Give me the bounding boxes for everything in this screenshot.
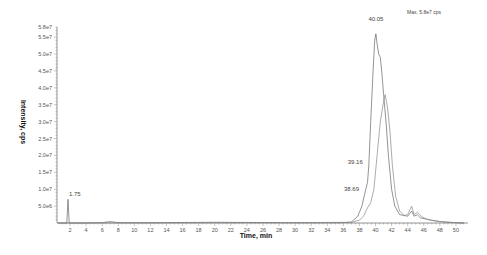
y-tick-label: 3.5e7 bbox=[38, 102, 52, 108]
x-tick-label: 16 bbox=[179, 227, 185, 233]
peak-label: 1.75 bbox=[69, 191, 81, 197]
max-intensity-label: Max. 5.8e7 cps bbox=[407, 9, 441, 15]
x-tick-label: 44 bbox=[405, 227, 411, 233]
x-tick-label: 30 bbox=[292, 227, 298, 233]
x-tick-label: 14 bbox=[163, 227, 169, 233]
x-tick-label: 50 bbox=[453, 227, 459, 233]
chromatogram-chart: 5.0e61.0e71.5e72.0e72.5e73.0e73.5e74.0e7… bbox=[0, 0, 487, 255]
x-tick-label: 42 bbox=[389, 227, 395, 233]
x-tick-label: 22 bbox=[228, 227, 234, 233]
peak-label: 39.16 bbox=[348, 159, 364, 165]
x-tick-label: 48 bbox=[437, 227, 443, 233]
y-axis: 5.0e61.0e71.5e72.0e72.5e73.0e73.5e74.0e7… bbox=[38, 24, 57, 223]
y-tick-label: 4.0e7 bbox=[38, 85, 52, 91]
y-tick-label: 4.5e7 bbox=[38, 68, 52, 74]
peak-label: 38.69 bbox=[344, 186, 360, 192]
trace-line bbox=[58, 34, 464, 223]
y-tick-label: 5.0e6 bbox=[38, 203, 52, 209]
y-tick-label: 1.0e7 bbox=[38, 186, 52, 192]
x-tick-label: 28 bbox=[276, 227, 282, 233]
y-tick-label: 5.8e7 bbox=[38, 24, 52, 30]
y-tick-label: 5.5e7 bbox=[38, 34, 52, 40]
x-tick-label: 18 bbox=[196, 227, 202, 233]
x-tick-label: 32 bbox=[308, 227, 314, 233]
x-tick-label: 38 bbox=[356, 227, 362, 233]
y-axis-title: Intensity, cps bbox=[19, 100, 27, 144]
x-tick-label: 34 bbox=[324, 227, 330, 233]
y-tick-label: 3.0e7 bbox=[38, 119, 52, 125]
x-tick-label: 2 bbox=[68, 227, 71, 233]
x-tick-label: 36 bbox=[340, 227, 346, 233]
x-tick-label: 10 bbox=[131, 227, 137, 233]
x-tick-label: 4 bbox=[85, 227, 88, 233]
peak-labels: 1.7538.6939.1640.05 bbox=[69, 16, 384, 197]
chromatogram-traces bbox=[58, 34, 464, 223]
x-axis-title: Time, min bbox=[240, 232, 273, 240]
peak-label: 40.05 bbox=[368, 16, 384, 22]
x-tick-label: 8 bbox=[117, 227, 120, 233]
x-tick-label: 40 bbox=[372, 227, 378, 233]
x-tick-label: 12 bbox=[147, 227, 153, 233]
y-tick-label: 2.0e7 bbox=[38, 152, 52, 158]
x-tick-label: 20 bbox=[212, 227, 218, 233]
trace-line bbox=[58, 95, 464, 223]
x-tick-label: 6 bbox=[101, 227, 104, 233]
x-tick-label: 46 bbox=[421, 227, 427, 233]
y-tick-label: 1.5e7 bbox=[38, 169, 52, 175]
y-tick-label: 2.5e7 bbox=[38, 136, 52, 142]
y-tick-label: 5.0e7 bbox=[38, 51, 52, 57]
